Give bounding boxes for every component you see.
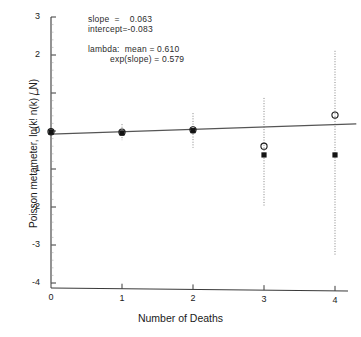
x-tick-label: 4 [325, 295, 345, 305]
x-tick-label: 0 [41, 292, 61, 302]
y-tick-label: 2 [20, 49, 40, 59]
regression-line [51, 124, 356, 134]
data-point-square [332, 152, 337, 157]
y-tick-label: -3 [20, 239, 40, 249]
y-tick-label: -1 [20, 163, 40, 173]
y-axis-ticks [51, 17, 56, 283]
y-tick-label: 1 [20, 87, 40, 97]
plot-area [0, 0, 361, 337]
x-tick-label: 1 [112, 293, 132, 303]
regression-line-path [51, 124, 356, 134]
data-point-square [261, 152, 266, 157]
x-tick-label: 2 [183, 293, 203, 303]
x-tick-label: 3 [254, 294, 274, 304]
x-axis-label: Number of Deaths [0, 312, 361, 324]
poisson-metameter-chart: slope = 0.063 intercept=-0.083 lambda: m… [0, 0, 361, 337]
y-tick-label: 3 [20, 11, 40, 21]
x-axis-line [51, 288, 348, 291]
annotation-exp-slope: exp(slope) = 0.579 [110, 54, 184, 64]
data-point-circle [261, 143, 267, 149]
y-tick-label: -2 [20, 201, 40, 211]
y-tick-label: 0 [20, 125, 40, 135]
annotation-slope: slope = 0.063 [88, 14, 152, 24]
error-bars [51, 51, 335, 256]
annotation-lambda-mean: lambda: mean = 0.610 [88, 44, 179, 54]
annotation-intercept: intercept=-0.083 [88, 24, 153, 34]
data-point-circle [332, 112, 338, 118]
axis-lines [51, 17, 348, 291]
y-tick-label: -4 [20, 277, 40, 287]
